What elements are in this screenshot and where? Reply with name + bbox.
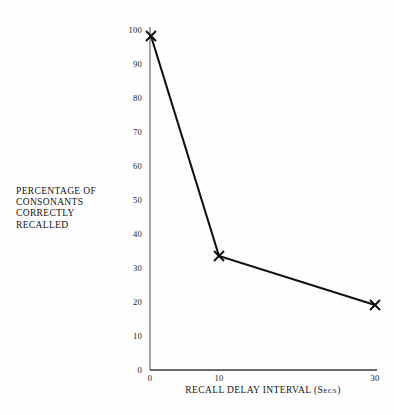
x-axis-label: RECALL DELAY INTERVAL (Secs) <box>150 385 376 395</box>
data-series-line <box>151 36 375 305</box>
chart-figure: PERCENTAGE OF CONSONANTS CORRECTLY RECAL… <box>0 0 394 415</box>
plot-area <box>0 0 394 415</box>
axis-lines <box>150 27 377 370</box>
